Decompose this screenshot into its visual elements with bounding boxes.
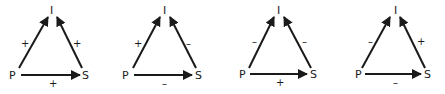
- sign-s-to-i: +: [73, 38, 81, 49]
- sign-p-to-i: +: [134, 38, 142, 49]
- triangle-diagram-4: I P S – + –: [355, 4, 431, 88]
- node-i: I: [50, 4, 53, 17]
- sign-s-to-i: +: [417, 36, 425, 47]
- node-p: P: [355, 68, 362, 81]
- node-p: P: [122, 69, 129, 82]
- node-s: S: [424, 68, 431, 81]
- sign-p-to-i: +: [21, 38, 29, 49]
- sign-s-to-i: –: [302, 36, 307, 47]
- node-p: P: [9, 69, 16, 82]
- node-p: P: [239, 68, 246, 81]
- edge-p-to-i: [362, 17, 390, 68]
- node-i: I: [277, 4, 280, 17]
- edge-s-to-i: [170, 17, 196, 68]
- node-s: S: [195, 69, 202, 82]
- sign-p-to-s: –: [393, 77, 398, 88]
- sign-p-to-s: +: [276, 77, 284, 88]
- triangle-diagram-2: I P S + – –: [122, 4, 202, 89]
- node-s: S: [82, 69, 89, 82]
- triangle-diagram-3: I P S – – +: [239, 4, 317, 88]
- sign-p-to-s: +: [49, 78, 57, 89]
- node-i: I: [394, 4, 397, 17]
- sign-triangle-diagrams: I P S + + + I P S + – – I P S – – + I P …: [0, 0, 445, 94]
- triangle-diagram-1: I P S + + +: [9, 4, 89, 89]
- sign-p-to-s: –: [162, 78, 167, 89]
- node-s: S: [310, 68, 317, 81]
- sign-s-to-i: –: [186, 38, 191, 49]
- sign-p-to-i: –: [252, 36, 257, 47]
- sign-p-to-i: –: [368, 36, 373, 47]
- node-i: I: [163, 4, 166, 17]
